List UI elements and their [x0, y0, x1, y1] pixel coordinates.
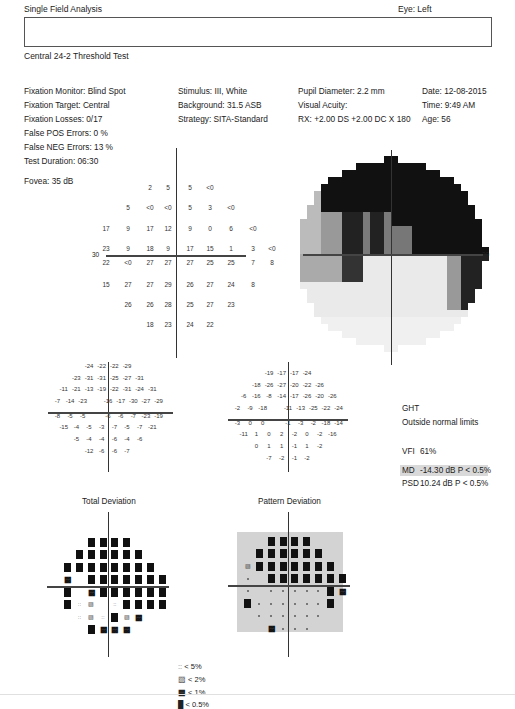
grayscale-cell [440, 303, 447, 310]
grayscale-cell [321, 212, 328, 219]
grayscale-cell [440, 177, 447, 184]
grayscale-cell [419, 247, 426, 254]
grayscale-cell [384, 233, 391, 240]
grayscale-cell [461, 240, 468, 247]
grayscale-cell [370, 310, 377, 317]
grayscale-cell [426, 170, 433, 177]
grayscale-cell [405, 191, 412, 198]
grayscale-cell [426, 226, 433, 233]
grayscale-cell [412, 338, 419, 345]
grayscale-cell [440, 261, 447, 268]
grayscale-cell [321, 289, 328, 296]
grayscale-cell [391, 191, 398, 198]
grayscale-cell [307, 261, 314, 268]
grayscale-cell [314, 247, 321, 254]
grayscale-cell [321, 226, 328, 233]
td-plot-vertical-axis [108, 512, 109, 657]
grayscale-cell [349, 324, 356, 331]
grayscale-cell [328, 198, 335, 205]
grayscale-cell [300, 275, 307, 282]
grayscale-cell [349, 268, 356, 275]
grayscale-cell [363, 233, 370, 240]
grayscale-cell [433, 282, 440, 289]
grayscale-cell [349, 261, 356, 268]
grayscale-cell [447, 191, 454, 198]
grayscale-cell [314, 233, 321, 240]
grayscale-cell [328, 268, 335, 275]
total-deviation-title: Total Deviation [82, 497, 136, 506]
normal-dot-icon [282, 628, 284, 630]
grayscale-cell [447, 268, 454, 275]
solid-block-icon [256, 562, 263, 571]
grayscale-cell [461, 226, 468, 233]
grayscale-cell [384, 240, 391, 247]
background: Background: 31.5 ASB [178, 98, 268, 112]
grayscale-cell [314, 303, 321, 310]
grayscale-cell [300, 226, 307, 233]
grayscale-cell [328, 212, 335, 219]
grayscale-cell [433, 240, 440, 247]
normal-dot-icon [317, 615, 319, 617]
age: Age: 56 [422, 112, 487, 126]
solid-block-icon [123, 538, 130, 547]
grayscale-cell [412, 296, 419, 303]
solid-block-icon [147, 575, 154, 584]
grayscale-cell [454, 184, 461, 191]
normal-dot-icon [306, 603, 308, 605]
threshold-value: 17 [140, 225, 160, 232]
grayscale-cell [377, 317, 384, 324]
grayscale-cell [447, 310, 454, 317]
grayscale-cell [377, 240, 384, 247]
grayscale-cell [440, 310, 447, 317]
grayscale-cell [433, 296, 440, 303]
grayscale-cell [328, 261, 335, 268]
solid-block-icon [88, 625, 95, 634]
grayscale-cell [356, 310, 363, 317]
grayscale-cell [328, 184, 335, 191]
grayscale-cell [377, 289, 384, 296]
grayscale-cell [363, 317, 370, 324]
solid-block-icon [123, 563, 130, 572]
solid-block-icon [280, 574, 287, 583]
grayscale-cell [356, 275, 363, 282]
grayscale-cell [426, 219, 433, 226]
grayscale-cell [391, 317, 398, 324]
grayscale-cell [356, 324, 363, 331]
solid-block-icon [111, 575, 118, 584]
grayscale-cell [384, 275, 391, 282]
grayscale-cell [426, 331, 433, 338]
threshold-value: <0 [158, 204, 178, 211]
grayscale-cell [321, 240, 328, 247]
grayscale-cell [314, 268, 321, 275]
grayscale-cell [419, 205, 426, 212]
grayscale-cell [356, 289, 363, 296]
threshold-value: 5 [180, 204, 200, 211]
grayscale-cell [405, 170, 412, 177]
info-col-fixation: Fixation Monitor: Blind Spot Fixation Ta… [24, 84, 125, 168]
grayscale-cell [321, 296, 328, 303]
grayscale-cell [398, 226, 405, 233]
grayscale-cell [384, 170, 391, 177]
grayscale-cell [335, 310, 342, 317]
grayscale-cell [384, 198, 391, 205]
normal-dot-icon [282, 603, 284, 605]
grayscale-cell [356, 338, 363, 345]
solid-block-icon [100, 588, 107, 597]
pattern-deviation-value: -26 [323, 393, 341, 399]
grayscale-cell [475, 261, 482, 268]
grayscale-cell [412, 247, 419, 254]
vfi-label: VFI [402, 447, 415, 456]
grayscale-cell [440, 226, 447, 233]
threshold-value: 5 [158, 184, 178, 191]
solid-block-icon [76, 563, 83, 572]
threshold-value: 2 [140, 184, 160, 191]
grayscale-cell [440, 275, 447, 282]
total-deviation-value: -21 [143, 424, 161, 430]
grayscale-cell [426, 191, 433, 198]
grayscale-cell [384, 261, 391, 268]
grayscale-cell [321, 275, 328, 282]
solid-block-icon [88, 563, 95, 572]
hatch-dark-icon: ▩ [135, 613, 142, 622]
grayscale-cell [454, 219, 461, 226]
total-deviation-value: -29 [118, 363, 136, 369]
